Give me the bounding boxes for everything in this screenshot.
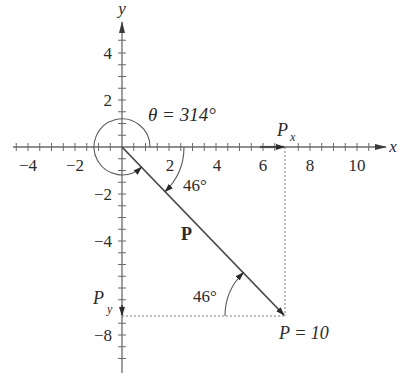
magnitude-label: P = 10 xyxy=(278,323,329,343)
x-axis: −4 −2 2 4 6 8 10 x xyxy=(13,137,397,175)
vector-diagram: −4 −2 2 4 6 8 10 x xyxy=(0,0,401,377)
py-label-main: P xyxy=(92,288,104,308)
angle-label-origin: 46° xyxy=(183,176,207,195)
y-axis: 4 2 −2 −4 −8 y xyxy=(94,0,126,373)
y-axis-label: y xyxy=(116,0,126,18)
vector-label: P xyxy=(181,224,192,244)
y-tick-label: −2 xyxy=(94,185,112,204)
py-label: P y xyxy=(92,288,113,316)
x-axis-label: x xyxy=(388,137,397,156)
px-label-main: P xyxy=(276,120,288,140)
y-tick-label: 4 xyxy=(104,44,113,63)
x-tick-label: −2 xyxy=(66,156,84,175)
theta-label: θ = 314° xyxy=(148,104,216,125)
y-tick-label: −8 xyxy=(94,326,112,345)
x-tick-label: 6 xyxy=(259,156,268,175)
y-tick-label: 2 xyxy=(104,91,113,110)
x-tick-label: 8 xyxy=(306,156,315,175)
y-tick-label: −4 xyxy=(94,232,113,251)
angle-arc-tip xyxy=(225,273,243,316)
x-tick-label: 10 xyxy=(349,156,366,175)
px-label: P x xyxy=(276,120,296,144)
x-tick-label: 4 xyxy=(213,156,222,175)
px-label-sub: x xyxy=(289,130,296,144)
py-label-sub: y xyxy=(106,302,113,316)
angle-label-tip: 46° xyxy=(193,287,217,306)
x-tick-label: −4 xyxy=(19,156,38,175)
x-tick-label: 2 xyxy=(166,156,175,175)
